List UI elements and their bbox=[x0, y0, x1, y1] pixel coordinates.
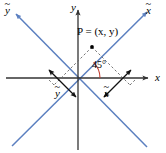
tilde-mark-icon: ~ bbox=[104, 82, 110, 92]
x-axis-label: x bbox=[155, 72, 160, 83]
tilde-mark-icon: ~ bbox=[146, 0, 152, 9]
figure-canvas bbox=[0, 0, 166, 153]
guide-line-left-drop bbox=[47, 78, 54, 85]
y-tilde-measure-label: ~ y bbox=[55, 88, 60, 99]
x-tilde-measure-label: ~ x bbox=[104, 88, 109, 99]
x-tilde-axis-label: ~ x bbox=[146, 5, 151, 16]
guide-line-to-y-tilde bbox=[54, 47, 92, 85]
point-p-label: P = (x, y) bbox=[77, 26, 118, 37]
point-p-text: P = (x, y) bbox=[77, 25, 118, 37]
angle-45-label: 45° bbox=[92, 60, 106, 70]
tilde-mark-icon: ~ bbox=[5, 0, 11, 9]
y-axis-label: y bbox=[71, 2, 76, 13]
point-p-marker bbox=[90, 45, 94, 49]
guide-line-right-drop bbox=[130, 78, 137, 85]
rotated-axes-figure: y x ~ y ~ x P = (x, y) 45° ~ y ~ x bbox=[0, 0, 166, 153]
tilde-mark-icon: ~ bbox=[55, 82, 61, 92]
y-tilde-axis-label: ~ y bbox=[5, 5, 10, 16]
